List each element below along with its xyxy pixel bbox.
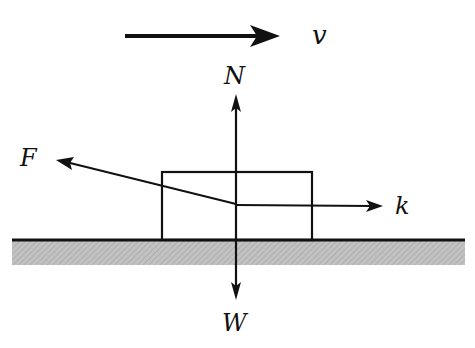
free-body-diagram: v N W F k (0, 0, 475, 348)
velocity-label: v (312, 20, 327, 50)
friction-label: k (395, 192, 410, 220)
normal-label: N (223, 62, 246, 90)
applied-force-label: F (19, 144, 38, 172)
friction-arrow (236, 200, 383, 212)
ground-surface (12, 241, 465, 265)
applied-force-arrow (56, 157, 236, 204)
velocity-arrow (125, 25, 280, 47)
weight-label: W (222, 309, 249, 337)
